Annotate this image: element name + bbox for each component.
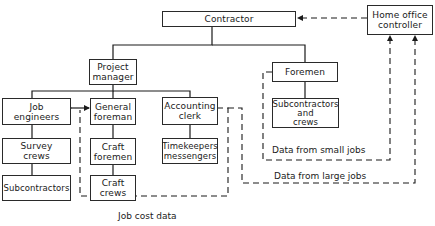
node-survey-crews: Survey crews [2, 138, 71, 164]
line-pm-job-engineers [32, 84, 113, 98]
node-accounting-clerk: Accounting clerk [162, 97, 218, 125]
line-contractor-foremen [212, 45, 305, 62]
org-chart-canvas: Contractor Home office controller Projec… [0, 0, 435, 226]
label-data-large-jobs: Data from large jobs [274, 171, 366, 181]
node-subcontractors: Subcontractors [2, 175, 71, 201]
node-contractor: Contractor [162, 11, 296, 27]
node-craft-crews: Craft crews [90, 175, 136, 201]
label-job-cost-data: Job cost data [118, 211, 177, 221]
node-home-office-controller: Home office controller [367, 5, 433, 35]
node-job-engineers: Job engineers [2, 98, 71, 125]
node-foremen: Foremen [272, 62, 338, 82]
node-timekeepers-messengers: Timekeepers messengers [162, 138, 218, 164]
line-contractor-project-manager [113, 26, 212, 59]
node-subcontractors-and-crews: Subcontractors and crews [272, 98, 339, 128]
label-data-small-jobs: Data from small jobs [272, 145, 365, 155]
node-general-foreman: General foreman [90, 98, 136, 125]
node-project-manager: Project manager [89, 59, 137, 85]
node-craft-foremen: Craft foremen [90, 138, 136, 165]
